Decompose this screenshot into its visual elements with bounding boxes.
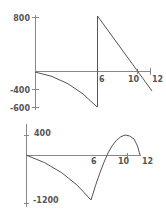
bottom-y-label-neg1200: -1200 [33,196,59,205]
top-y-label-800: 800 [13,14,30,23]
top-x-label-6: 6 [99,75,105,84]
bottom-x-label-12: 12 [142,157,153,166]
top-x-label-12: 12 [152,75,163,84]
top-chart: 800 -400 -600 6 10 12 [10,14,163,113]
bottom-curve-rise-arch [91,135,140,200]
top-y-label-neg400: -400 [10,86,30,95]
top-y-label-neg600: -600 [10,104,30,113]
bottom-chart: 400 -1200 6 10 12 [24,124,153,207]
bottom-x-label-10: 10 [118,157,130,166]
bottom-y-label-400: 400 [34,129,51,138]
bottom-curve-descent [26,155,91,200]
top-x-label-10: 10 [128,75,140,84]
diagrams-canvas: 800 -400 -600 6 10 12 400 -1200 6 10 12 [0,0,166,217]
top-line-right [98,16,153,91]
top-curve-left [35,72,97,107]
bottom-x-label-6: 6 [91,157,97,166]
